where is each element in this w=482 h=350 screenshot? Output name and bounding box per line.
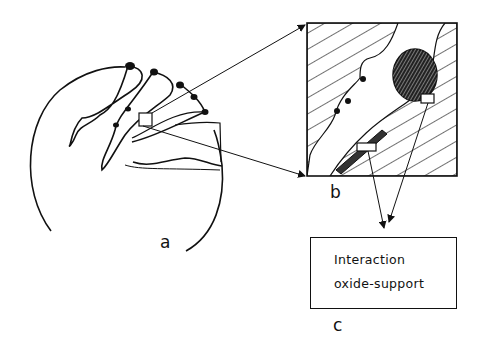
- interface-marker-2: [421, 94, 434, 103]
- interface-marker-1: [357, 143, 376, 151]
- panel-a: [30, 66, 222, 251]
- particles-a: [113, 62, 209, 128]
- pore-5: [175, 122, 221, 162]
- box-line-2: oxide-support: [334, 276, 424, 291]
- label-b: b: [330, 182, 341, 202]
- label-a: a: [160, 232, 170, 252]
- interaction-box: Interaction oxide-support: [310, 237, 457, 309]
- grain-outline-right: [186, 130, 223, 251]
- zoom-line-top: [152, 25, 305, 113]
- pore-4b: [125, 165, 220, 170]
- box-line-1: Interaction: [334, 252, 405, 267]
- pore-4: [133, 158, 222, 166]
- grain-outline-left: [30, 67, 125, 231]
- pore-1: [69, 66, 142, 146]
- label-c: c: [333, 315, 342, 335]
- magnified-region-marker: [139, 113, 152, 126]
